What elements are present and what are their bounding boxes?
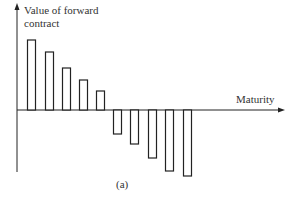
x-axis-arrow-icon (278, 108, 285, 113)
bar (184, 110, 192, 176)
bar (166, 110, 174, 171)
y-axis-label: Value of forward contract (24, 4, 99, 30)
bar (97, 91, 105, 110)
figure-caption: (a) (116, 178, 128, 190)
bar (46, 52, 54, 110)
x-axis-label: Maturity (236, 93, 275, 105)
bar (80, 80, 88, 110)
bar (131, 110, 139, 144)
bars (28, 40, 192, 176)
bar (28, 40, 36, 110)
y-axis-label-line-2: contract (24, 17, 99, 30)
y-axis-label-line-1: Value of forward (24, 4, 99, 17)
bar (149, 110, 157, 158)
y-axis-arrow-icon (15, 3, 20, 10)
bar (63, 68, 71, 110)
bar (114, 110, 122, 134)
